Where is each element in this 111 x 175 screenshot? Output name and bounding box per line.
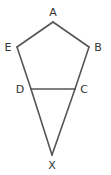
label-a: A xyxy=(49,6,57,19)
label-x: X xyxy=(48,159,56,172)
segment-cx xyxy=(52,89,75,155)
geometry-diagram: A B C D E X xyxy=(0,0,111,175)
label-c: C xyxy=(80,83,88,96)
label-d: D xyxy=(16,83,24,96)
diagram-svg: A B C D E X xyxy=(0,0,111,175)
segments-group xyxy=(17,22,89,155)
label-e: E xyxy=(5,41,12,54)
segment-ea xyxy=(17,22,53,47)
label-b: B xyxy=(94,41,102,54)
segment-ab xyxy=(53,22,89,47)
segment-dx xyxy=(31,89,52,155)
